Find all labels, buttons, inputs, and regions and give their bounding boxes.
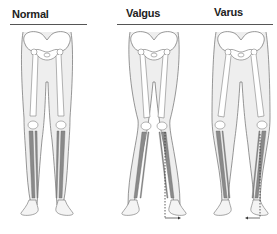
figure-varus: [212, 32, 270, 220]
figure-valgus: [122, 32, 186, 220]
leg-alignment-figures: [0, 0, 277, 234]
figure-normal: [21, 32, 73, 216]
